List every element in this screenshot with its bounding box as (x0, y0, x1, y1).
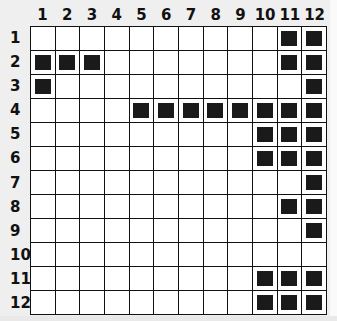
grid-cell-r5-c12[interactable] (302, 123, 327, 147)
grid-cell-r12-c10[interactable] (253, 291, 278, 315)
grid-cell-r10-c3[interactable] (80, 243, 105, 267)
grid-cell-r8-c6[interactable] (154, 195, 179, 219)
grid-cell-r6-c8[interactable] (204, 147, 229, 171)
grid-cell-r2-c1[interactable] (31, 51, 56, 75)
grid-cell-r1-c8[interactable] (204, 27, 229, 51)
grid-cell-r5-c10[interactable] (253, 123, 278, 147)
grid-cell-r4-c12[interactable] (302, 99, 327, 123)
grid-cell-r9-c8[interactable] (204, 219, 229, 243)
grid-cell-r12-c5[interactable] (130, 291, 155, 315)
grid-cell-r6-c1[interactable] (31, 147, 56, 171)
grid-cell-r6-c3[interactable] (80, 147, 105, 171)
grid-cell-r4-c10[interactable] (253, 99, 278, 123)
grid-cell-r4-c9[interactable] (228, 99, 253, 123)
grid-cell-r6-c10[interactable] (253, 147, 278, 171)
grid-cell-r9-c11[interactable] (278, 219, 303, 243)
grid-cell-r2-c3[interactable] (80, 51, 105, 75)
grid-cell-r1-c6[interactable] (154, 27, 179, 51)
grid-cell-r5-c9[interactable] (228, 123, 253, 147)
grid-cell-r11-c3[interactable] (80, 267, 105, 291)
grid-cell-r5-c3[interactable] (80, 123, 105, 147)
grid-cell-r10-c4[interactable] (105, 243, 130, 267)
grid-cell-r9-c10[interactable] (253, 219, 278, 243)
grid-cell-r3-c4[interactable] (105, 75, 130, 99)
grid-cell-r6-c5[interactable] (130, 147, 155, 171)
grid-cell-r3-c8[interactable] (204, 75, 229, 99)
grid-cell-r4-c2[interactable] (56, 99, 81, 123)
grid-cell-r6-c12[interactable] (302, 147, 327, 171)
grid-cell-r7-c10[interactable] (253, 171, 278, 195)
grid-cell-r12-c2[interactable] (56, 291, 81, 315)
grid-cell-r11-c1[interactable] (31, 267, 56, 291)
grid-cell-r10-c6[interactable] (154, 243, 179, 267)
grid-cell-r9-c3[interactable] (80, 219, 105, 243)
grid-cell-r11-c8[interactable] (204, 267, 229, 291)
grid-cell-r12-c4[interactable] (105, 291, 130, 315)
grid-cell-r8-c10[interactable] (253, 195, 278, 219)
grid-cell-r6-c2[interactable] (56, 147, 81, 171)
grid-cell-r11-c7[interactable] (179, 267, 204, 291)
grid-cell-r8-c3[interactable] (80, 195, 105, 219)
grid-cell-r2-c10[interactable] (253, 51, 278, 75)
grid-cell-r12-c3[interactable] (80, 291, 105, 315)
grid-cell-r12-c1[interactable] (31, 291, 56, 315)
grid-cell-r8-c8[interactable] (204, 195, 229, 219)
grid-cell-r11-c5[interactable] (130, 267, 155, 291)
grid-cell-r4-c11[interactable] (278, 99, 303, 123)
grid-cell-r2-c6[interactable] (154, 51, 179, 75)
grid-cell-r3-c5[interactable] (130, 75, 155, 99)
grid-cell-r7-c1[interactable] (31, 171, 56, 195)
grid-cell-r3-c1[interactable] (31, 75, 56, 99)
grid-cell-r10-c1[interactable] (31, 243, 56, 267)
grid-cell-r7-c3[interactable] (80, 171, 105, 195)
grid-cell-r7-c6[interactable] (154, 171, 179, 195)
grid-cell-r9-c7[interactable] (179, 219, 204, 243)
grid-cell-r7-c4[interactable] (105, 171, 130, 195)
grid-cell-r2-c7[interactable] (179, 51, 204, 75)
grid-cell-r11-c9[interactable] (228, 267, 253, 291)
grid-cell-r8-c12[interactable] (302, 195, 327, 219)
grid-cell-r12-c9[interactable] (228, 291, 253, 315)
grid-cell-r10-c12[interactable] (302, 243, 327, 267)
grid-cell-r4-c4[interactable] (105, 99, 130, 123)
grid-cell-r8-c7[interactable] (179, 195, 204, 219)
grid-cell-r11-c12[interactable] (302, 267, 327, 291)
grid-cell-r8-c2[interactable] (56, 195, 81, 219)
grid-cell-r9-c12[interactable] (302, 219, 327, 243)
grid-cell-r3-c7[interactable] (179, 75, 204, 99)
grid-cell-r1-c3[interactable] (80, 27, 105, 51)
grid-cell-r3-c12[interactable] (302, 75, 327, 99)
grid-cell-r12-c8[interactable] (204, 291, 229, 315)
grid-cell-r4-c8[interactable] (204, 99, 229, 123)
grid-cell-r1-c11[interactable] (278, 27, 303, 51)
grid-cell-r5-c2[interactable] (56, 123, 81, 147)
grid-cell-r10-c9[interactable] (228, 243, 253, 267)
grid-cell-r9-c1[interactable] (31, 219, 56, 243)
grid-cell-r3-c2[interactable] (56, 75, 81, 99)
grid-cell-r9-c6[interactable] (154, 219, 179, 243)
grid-cell-r1-c4[interactable] (105, 27, 130, 51)
grid-cell-r6-c6[interactable] (154, 147, 179, 171)
grid-cell-r1-c9[interactable] (228, 27, 253, 51)
grid-cell-r9-c5[interactable] (130, 219, 155, 243)
grid-cell-r3-c10[interactable] (253, 75, 278, 99)
grid-cell-r5-c11[interactable] (278, 123, 303, 147)
grid-cell-r1-c5[interactable] (130, 27, 155, 51)
grid-cell-r4-c3[interactable] (80, 99, 105, 123)
grid-cell-r2-c4[interactable] (105, 51, 130, 75)
grid-cell-r1-c1[interactable] (31, 27, 56, 51)
grid-cell-r11-c11[interactable] (278, 267, 303, 291)
grid-cell-r4-c5[interactable] (130, 99, 155, 123)
grid-cell-r9-c9[interactable] (228, 219, 253, 243)
grid-cell-r3-c3[interactable] (80, 75, 105, 99)
grid-cell-r5-c4[interactable] (105, 123, 130, 147)
grid-cell-r4-c6[interactable] (154, 99, 179, 123)
grid-cell-r10-c7[interactable] (179, 243, 204, 267)
grid-cell-r9-c4[interactable] (105, 219, 130, 243)
grid-cell-r7-c8[interactable] (204, 171, 229, 195)
grid-cell-r6-c4[interactable] (105, 147, 130, 171)
grid-cell-r3-c11[interactable] (278, 75, 303, 99)
grid-cell-r11-c2[interactable] (56, 267, 81, 291)
grid-cell-r7-c2[interactable] (56, 171, 81, 195)
grid-cell-r5-c8[interactable] (204, 123, 229, 147)
